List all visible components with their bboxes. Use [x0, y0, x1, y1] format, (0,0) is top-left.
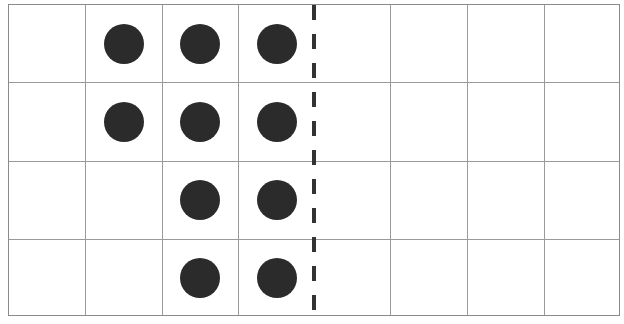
dot-counter [180, 102, 220, 142]
dot-counter [180, 180, 220, 220]
dot-counter [257, 258, 297, 298]
grid-column-line [544, 5, 545, 315]
dot-grid [8, 4, 620, 316]
grid-column-line [238, 5, 239, 315]
grid-column-line [390, 5, 391, 315]
grid-column-line [467, 5, 468, 315]
dot-counter [257, 180, 297, 220]
dashed-divider [312, 5, 316, 315]
dot-counter [180, 258, 220, 298]
dot-counter [104, 102, 144, 142]
dot-counter [104, 24, 144, 64]
grid-column-line [85, 5, 86, 315]
grid-column-line [162, 5, 163, 315]
dot-counter [257, 102, 297, 142]
dot-counter [180, 24, 220, 64]
dot-counter [257, 24, 297, 64]
